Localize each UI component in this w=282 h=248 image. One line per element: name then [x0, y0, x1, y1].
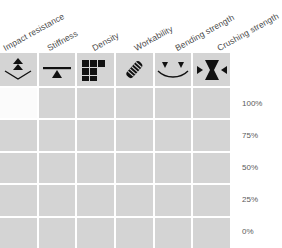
scale-tick-75: 75% [242, 132, 258, 140]
grid-cell [39, 185, 76, 215]
percentage-scale-axis: 100% 75% 50% 25% 0% [234, 88, 282, 248]
grid-row [0, 120, 230, 150]
grid-cell [0, 218, 37, 248]
column-header-workability: Workability [133, 24, 174, 52]
grid-cell [77, 153, 114, 183]
icon-cell-impact-resistance [0, 53, 37, 86]
grid-cell [77, 218, 114, 248]
scale-tick-0: 0% [242, 228, 254, 236]
scale-tick-100: 100% [242, 100, 262, 108]
grid-cell [0, 185, 37, 215]
scale-tick-50: 50% [242, 164, 258, 172]
grid-cell [77, 88, 114, 118]
grid-row [0, 153, 230, 183]
bending-beam-icon [156, 60, 190, 80]
grid-cell [39, 153, 76, 183]
grid-cell [193, 88, 230, 118]
grid-cell [193, 120, 230, 150]
icon-cell-workability [116, 53, 153, 86]
grid-cell [77, 120, 114, 150]
icon-cell-density [77, 53, 114, 86]
column-header-labels: Impact resistance Stiffness Density Work… [0, 0, 282, 52]
grid-cell [193, 153, 230, 183]
grid-cell [116, 185, 153, 215]
scale-tick-25: 25% [242, 196, 258, 204]
column-header-stiffness: Stiffness [46, 28, 79, 52]
grid-row [0, 185, 230, 215]
grid-cell [116, 120, 153, 150]
grid-cell [155, 120, 192, 150]
grid-cell [155, 153, 192, 183]
grid-cell [116, 88, 153, 118]
grid-cell [77, 185, 114, 215]
icon-cell-crushing-strength [193, 53, 230, 86]
packed-blocks-icon [81, 58, 111, 82]
grid-cell [155, 88, 192, 118]
chart-grid [0, 88, 230, 248]
grid-cell [0, 153, 37, 183]
grid-cell [193, 218, 230, 248]
saw-file-icon [120, 57, 148, 83]
grid-row [0, 218, 230, 248]
grid-cell [39, 120, 76, 150]
property-icon-row [0, 53, 230, 86]
grid-cell [39, 88, 76, 118]
grid-cell [0, 88, 37, 118]
grid-cell [116, 218, 153, 248]
column-header-density: Density [91, 30, 121, 52]
grid-cell [39, 218, 76, 248]
icon-cell-bending-strength [155, 53, 192, 86]
icon-cell-stiffness [39, 53, 76, 86]
grid-cell [116, 153, 153, 183]
grid-cell [0, 120, 37, 150]
impact-arrows-icon [3, 58, 33, 82]
material-properties-chart: Impact resistance Stiffness Density Work… [0, 0, 282, 248]
grid-cell [155, 218, 192, 248]
grid-cell [193, 185, 230, 215]
grid-cell [155, 185, 192, 215]
compression-hourglass-icon [196, 58, 228, 82]
grid-row [0, 88, 230, 118]
beam-fulcrum-icon [41, 59, 73, 81]
